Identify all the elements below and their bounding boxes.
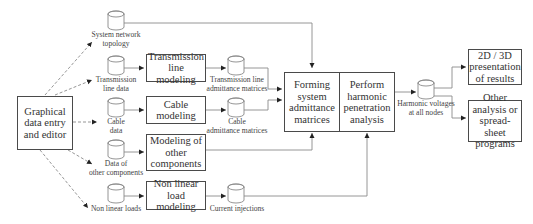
cable-admittance-label: Cable admittance matrices: [204, 118, 270, 135]
cable-data-label: Cable data: [86, 118, 146, 135]
cable-modeling-box: Cable modeling: [146, 96, 206, 124]
nonlinear-loads-label: Non linear loads: [82, 205, 150, 214]
database-icon-line-admittance: [228, 56, 244, 75]
database-icon-nonlinear-loads: [108, 184, 124, 203]
database-icon-harmonic-voltages: [418, 80, 434, 99]
forming-admittance-box: Forming system admittance matrices: [284, 72, 340, 132]
nonlinear-modeling-box: Non linear load modeling: [146, 181, 206, 210]
line-admittance-label: Transmission line admittance matrices: [204, 76, 270, 93]
database-icon-other-data: [108, 140, 124, 159]
harmonic-analysis-box: Perform harmonic penetration analysis: [339, 72, 395, 132]
other-data-label: Data of other components: [80, 160, 152, 177]
database-icon-line-data: [108, 56, 124, 75]
other-components-modeling-box: Modeling of other components: [146, 134, 206, 171]
other-analysis-box: Other analysis or spread-sheet programs: [468, 100, 522, 142]
presentation-results-box: 2D / 3D presentation of results: [468, 49, 522, 85]
database-icon-cable-admittance: [228, 98, 244, 117]
transmission-modeling-box: Transmission line modeling: [146, 54, 206, 82]
database-icon-topology: [108, 11, 124, 30]
harmonic-voltages-label: Harmonic voltages at all nodes: [394, 100, 458, 117]
current-injections-label: Current injections: [204, 205, 270, 214]
graphical-editor-box: Graphical data entry and editor: [17, 96, 73, 150]
database-icon-cable-data: [108, 98, 124, 117]
topology-label: System network topology: [86, 31, 146, 48]
line-data-label: Transmission line data: [86, 76, 146, 93]
database-icon-current-injections: [228, 184, 244, 203]
